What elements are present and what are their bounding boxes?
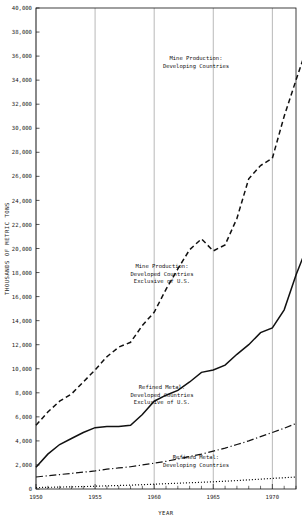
chart-container: 02,0004,0006,0008,00010,00012,00014,0001… [0, 0, 302, 519]
y-tick-label: 4,000 [15, 438, 32, 444]
y-tick-label: 0 [29, 486, 32, 492]
ann-mine-developing: Mine Production:Developing Countries [163, 55, 229, 70]
y-tick-label: 32,000 [12, 101, 32, 107]
y-tick-label: 2,000 [15, 462, 32, 468]
grid-lines [36, 8, 272, 489]
x-axis-tick-labels: 19501955196019651970 [29, 494, 279, 500]
series-annotations: Mine Production:Developing CountriesMine… [131, 55, 230, 469]
ann-mine-developed: Mine Production:Developed CountriesExclu… [131, 263, 194, 284]
ann-refined-developing: Refined Metal:Developing Countries [163, 454, 229, 469]
series-line [36, 423, 296, 477]
series-line [36, 45, 302, 425]
line-chart: 02,0004,0006,0008,00010,00012,00014,0001… [0, 0, 302, 519]
y-tick-label: 34,000 [12, 77, 32, 83]
annotation-line: Mine Production: [170, 55, 223, 61]
ann-refined-developed: Refined Metal:Developed CountriesExclusi… [131, 384, 194, 405]
x-axis-title: YEAR [158, 510, 174, 516]
x-tick-label: 1955 [88, 494, 101, 500]
y-tick-label: 26,000 [12, 173, 32, 179]
y-tick-label: 36,000 [12, 53, 32, 59]
y-tick-label: 24,000 [12, 198, 32, 204]
x-tick-label: 1970 [266, 494, 279, 500]
annotation-line: Refined Metal: [139, 384, 185, 390]
y-tick-label: 8,000 [15, 390, 32, 396]
y-tick-label: 12,000 [12, 342, 32, 348]
x-tick-label: 1960 [147, 494, 160, 500]
y-axis-title: THOUSANDS OF METRIC TONS [4, 202, 10, 295]
y-tick-label: 38,000 [12, 29, 32, 35]
y-tick-label: 22,000 [12, 222, 32, 228]
plot-frame [36, 8, 296, 489]
x-tick-label: 1950 [29, 494, 42, 500]
y-tick-label: 28,000 [12, 149, 32, 155]
annotation-line: Developing Countries [163, 63, 229, 70]
y-tick-label: 20,000 [12, 246, 32, 252]
annotation-line: Developed Countries [131, 271, 194, 278]
annotation-line: Developing Countries [163, 462, 229, 469]
y-tick-label: 18,000 [12, 270, 32, 276]
plot-border [36, 8, 296, 489]
y-tick-label: 16,000 [12, 294, 32, 300]
axis-ticks [36, 8, 296, 489]
y-tick-label: 10,000 [12, 366, 32, 372]
y-tick-label: 6,000 [15, 414, 32, 420]
y-tick-label: 30,000 [12, 125, 32, 131]
annotation-line: Refined Metal: [173, 454, 219, 460]
annotation-line: Exclusive of U.S. [134, 278, 190, 284]
y-tick-label: 14,000 [12, 318, 32, 324]
x-tick-label: 1965 [207, 494, 220, 500]
y-tick-label: 40,000 [12, 5, 32, 11]
annotation-line: Exclusive of U.S. [134, 399, 190, 405]
annotation-line: Mine Production: [136, 263, 189, 269]
y-axis-tick-labels: 02,0004,0006,0008,00010,00012,00014,0001… [12, 5, 32, 492]
annotation-line: Developed Countries [131, 392, 194, 399]
